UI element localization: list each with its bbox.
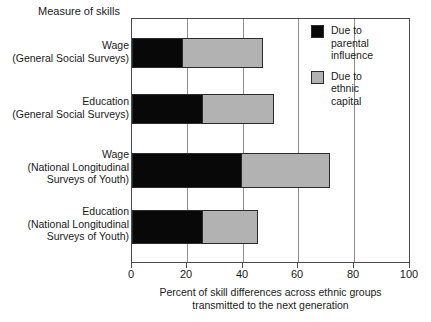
category-label-main: Education [1,205,129,218]
category-label-sub: (General Social Surveys) [1,108,129,121]
legend-label-line1: Due to [331,24,373,37]
legend-entry-ethnic: Due to ethnic capital [311,70,421,108]
legend-label-line3: capital [331,95,362,108]
category-label-main: Education [1,95,129,108]
category-axis-labels: Wage (General Social Surveys) Education … [0,0,129,322]
gridline-60 [298,19,299,262]
bar-row [132,210,258,244]
category-label-sub: (National Longitudinal [1,161,129,174]
category-label-wage-gss: Wage (General Social Surveys) [1,39,129,64]
category-label-sub2: Surveys of Youth) [1,173,129,186]
bar-segment-ethnic [182,38,263,68]
legend-swatch-black-square [311,25,324,38]
legend-label-line2: ethnic [331,82,362,95]
x-axis-title: Percent of skill differences across ethn… [131,286,410,312]
tick-label-80: 80 [347,268,359,281]
legend-label-line3: influence [331,49,373,62]
category-label-main: Wage [1,148,129,161]
bar-segment-ethnic [202,210,258,244]
category-label-sub: (National Longitudinal [1,218,129,231]
category-label-main: Wage [1,39,129,52]
legend-label-ethnic: Due to ethnic capital [331,70,362,108]
bar-row [132,38,263,68]
bar-segment-parental [132,210,202,244]
bar-row [132,94,274,124]
bar-segment-parental [132,38,182,68]
tick-label-100: 100 [400,268,418,281]
tick-label-40: 40 [236,268,248,281]
bar-segment-ethnic [241,153,330,188]
category-label-wage-nlsy: Wage (National Longitudinal Surveys of Y… [1,148,129,186]
tick-label-0: 0 [128,268,134,281]
bar-row [132,153,330,188]
legend-swatch-gray-square [311,71,324,84]
bar-segment-ethnic [202,94,274,124]
legend-label-line1: Due to [331,70,362,83]
bar-segment-parental [132,153,241,188]
legend-label-line2: parental [331,37,373,50]
legend-entry-parental: Due to parental influence [311,24,421,62]
category-label-sub: (General Social Surveys) [1,52,129,65]
category-label-sub2: Surveys of Youth) [1,230,129,243]
category-label-education-gss: Education (General Social Surveys) [1,95,129,120]
chart-figure: Measure of skills Wage (General Social S… [0,0,431,322]
legend-label-parental: Due to parental influence [331,24,373,62]
x-axis-title-line2: transmitted to the next generation [131,299,410,312]
chart-legend: Due to parental influence Due to ethnic … [311,24,421,115]
tick-label-20: 20 [180,268,192,281]
tick-label-60: 60 [291,268,303,281]
category-label-education-nlsy: Education (National Longitudinal Surveys… [1,205,129,243]
x-axis-title-line1: Percent of skill differences across ethn… [131,286,410,299]
bar-segment-parental [132,94,202,124]
